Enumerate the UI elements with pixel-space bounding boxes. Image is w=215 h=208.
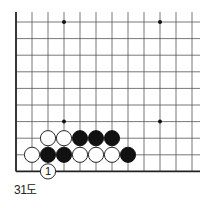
white-stone-icon [56, 131, 71, 146]
star-point-icon [158, 120, 162, 124]
diagram-caption: 31도 [14, 180, 37, 197]
black-stone-icon [88, 131, 103, 146]
black-stone-icon [120, 147, 135, 162]
black-stone-icon [56, 147, 71, 162]
black-stone-icon [40, 147, 55, 162]
white-stone-icon [72, 147, 87, 162]
star-point-icon [158, 20, 162, 24]
star-point-icon [62, 20, 66, 24]
white-stone-icon [40, 131, 55, 146]
black-stone-icon [104, 131, 119, 146]
white-stone-icon [104, 147, 119, 162]
go-board-diagram: 1 [0, 0, 215, 180]
white-stone-icon [88, 147, 103, 162]
star-point-icon [62, 120, 66, 124]
black-stone-icon [72, 131, 87, 146]
white-stone-icon [24, 147, 39, 162]
move-number-label: 1 [45, 165, 51, 177]
